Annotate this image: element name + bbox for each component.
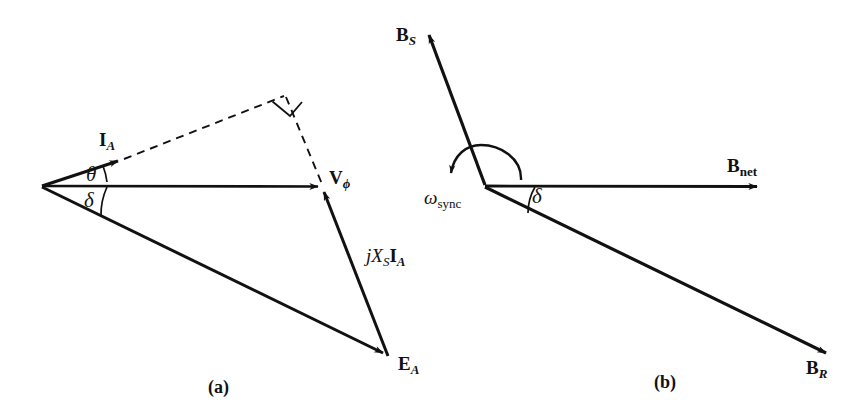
angle-label-delta-a: δ — [84, 190, 94, 211]
label-bs-symbol: B — [396, 24, 409, 45]
label-stator-field-bs: BS — [396, 25, 416, 47]
rotation-arrow-omega-sync — [451, 145, 521, 180]
right-angle-mark — [273, 102, 303, 117]
angle-label-theta: θ — [86, 164, 96, 185]
label-omega-symbol: ω — [424, 187, 437, 208]
panel-b-group — [429, 35, 826, 353]
construction-line-ia-corner — [124, 96, 284, 159]
vector-br — [485, 187, 826, 353]
label-jxsia-i: I — [389, 245, 396, 266]
label-current-ia: IA — [99, 130, 115, 152]
construction-line-corner-vphi — [286, 97, 322, 184]
label-omega-subscript: sync — [437, 196, 461, 211]
label-ia-subscript: A — [106, 138, 115, 153]
vector-bs — [429, 35, 485, 185]
label-jxsia-x: X — [371, 245, 383, 266]
label-vphi-subscript: ϕ — [343, 176, 351, 191]
vector-bnet — [485, 186, 757, 187]
label-jxsia-i-subscript: A — [397, 254, 406, 269]
label-bnet-symbol: B — [727, 155, 740, 176]
label-ea-subscript: A — [411, 362, 420, 377]
caption-panel-a: (a) — [208, 378, 229, 396]
figure-canvas: IA Vϕ EA jXSIA θ δ (a) BS Bnet BR ωsync … — [0, 0, 863, 419]
panel-a-group — [42, 96, 388, 356]
label-br-subscript: R — [819, 366, 828, 381]
vector-ia — [42, 161, 118, 186]
label-net-field-bnet: Bnet — [727, 156, 757, 178]
label-reactance-drop-jxsia: jXSIA — [366, 246, 405, 268]
label-bs-subscript: S — [409, 33, 416, 48]
vector-vphi — [42, 186, 318, 187]
label-internal-voltage-ea: EA — [398, 354, 419, 376]
label-bnet-subscript: net — [740, 164, 757, 179]
caption-panel-b: (b) — [654, 373, 676, 391]
label-vphi-symbol: V — [329, 167, 343, 188]
label-ea-symbol: E — [398, 353, 411, 374]
vector-jxsia — [324, 192, 388, 356]
label-terminal-voltage-vphi: Vϕ — [329, 168, 350, 190]
label-rotor-field-br: BR — [806, 358, 827, 380]
angle-arc-delta — [101, 187, 107, 216]
angle-arc-theta — [103, 166, 107, 182]
angle-label-delta-b: δ — [532, 186, 542, 207]
label-br-symbol: B — [806, 357, 819, 378]
label-omega-sync: ωsync — [424, 188, 461, 210]
